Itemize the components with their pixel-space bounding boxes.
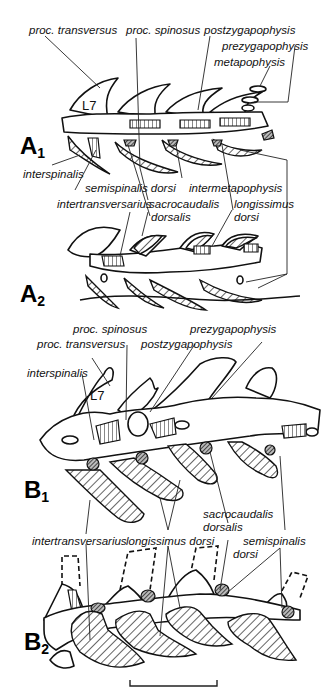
vertebra-label-l7-a1: L7 (82, 98, 96, 113)
panel-a2-drawing (68, 210, 300, 310)
label-prezygapophysis-a: prezygapophysis (222, 40, 308, 52)
label-longissimus-a: longissimus (234, 198, 294, 210)
label-proc-spinosus-b: proc. spinosus (73, 323, 147, 335)
label-proc-transversus-a: proc. transversus (29, 24, 117, 36)
scale-bar (130, 680, 217, 686)
panel-label-a1: A1 (20, 134, 45, 161)
label-postzygapophysis-b: postzygapophysis (141, 338, 232, 350)
label-dorsalis-b: dorsalis (203, 521, 243, 533)
label-semispinalis-dorsi-b: dorsi (233, 548, 258, 560)
label-proc-transversus-b: proc. transversus (37, 338, 125, 350)
panel-label-b2: B2 (24, 630, 49, 657)
label-longissimus-dorsi-b: longissimus dorsi (126, 535, 214, 547)
vertebra-label-l7-b1: L7 (90, 388, 104, 403)
label-intertransversarius-b: intertransversarius (32, 535, 127, 547)
label-interspinalis-a: interspinalis (23, 168, 84, 180)
label-intertransversarius-a: intertransversarius (57, 198, 152, 210)
label-dorsalis-a: dorsalis (151, 211, 191, 223)
label-prezygapophysis-b: prezygapophysis (190, 323, 276, 335)
label-longissimus-dorsi-a: dorsi (234, 211, 259, 223)
label-semispinalis-dorsi-a: semispinalis dorsi (85, 182, 176, 194)
label-sacrocaudalis-b: sacrocaudalis (203, 508, 273, 520)
panel-label-b1: B1 (24, 478, 49, 505)
panel-label-a2: A2 (20, 282, 45, 309)
label-sacrocaudalis-a: sacrocaudalis (149, 198, 219, 210)
label-intermetapophysis-a: intermetapophysis (189, 182, 282, 194)
panel-b2-drawing (44, 540, 308, 686)
label-interspinalis-b: interspinalis (27, 367, 88, 379)
label-metapophysis-a: metapophysis (214, 56, 285, 68)
label-postzygapophysis-a: postzygapophysis (204, 24, 295, 36)
label-proc-spinosus-a: proc. spinosus (126, 24, 200, 36)
label-semispinalis-b: semispinalis (243, 535, 306, 547)
